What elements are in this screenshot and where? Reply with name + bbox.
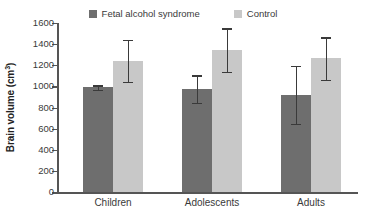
y-axis-tick-label: 1000 <box>33 80 54 91</box>
error-bar-cap-lower <box>222 72 232 73</box>
legend-item-fetal-alcohol-syndrome: Fetal alcohol syndrome <box>89 9 200 19</box>
error-bar-cap-lower <box>93 90 103 91</box>
x-axis-label-children: Children <box>63 197 163 209</box>
y-axis-tick-label: 1200 <box>33 59 54 70</box>
legend-label-fas: Fetal alcohol syndrome <box>102 9 200 19</box>
error-bar-cap-lower <box>291 124 301 125</box>
bar-group-adults <box>281 23 341 192</box>
error-bar-line <box>128 40 129 82</box>
error-bar-cap-upper <box>291 66 301 67</box>
legend-swatch-fas <box>89 10 97 18</box>
error-bar-cap-upper <box>192 75 202 76</box>
x-axis-line <box>52 192 358 194</box>
bar-adolescents-fas <box>182 89 212 192</box>
bar-group-children <box>83 23 143 192</box>
chart-legend: Fetal alcohol syndrome Control <box>0 5 366 23</box>
error-bar-cap-upper <box>123 40 133 41</box>
error-bar-cap-upper <box>222 28 232 29</box>
error-bar-cap-lower <box>321 80 331 81</box>
plot-area: 16001400120010008006004002000 ChildrenAd… <box>57 23 358 192</box>
error-bar-cap-lower <box>192 103 202 104</box>
legend-label-control: Control <box>247 9 278 19</box>
error-bar-line <box>227 28 228 71</box>
y-axis-tick-label: 1400 <box>33 38 54 49</box>
y-axis-title-exponent: 3 <box>4 66 11 70</box>
bar-group-adolescents <box>182 23 242 192</box>
legend-item-control: Control <box>234 9 278 19</box>
y-axis-title-tail: ) <box>5 63 16 66</box>
error-bar-cap-lower <box>123 82 133 83</box>
error-bar-line <box>197 75 198 102</box>
legend-swatch-control <box>234 10 242 18</box>
y-axis-tick-label: 1600 <box>33 17 54 28</box>
y-axis-tick-label: 0 <box>49 186 54 197</box>
error-bar-line <box>326 37 327 79</box>
error-bar-line <box>296 66 297 124</box>
error-bar-cap-upper <box>93 85 103 86</box>
x-axis-label-adults: Adults <box>261 197 361 209</box>
y-axis-tick-label: 200 <box>38 165 54 176</box>
error-bar-cap-upper <box>321 37 331 38</box>
y-axis-tick-label: 800 <box>38 102 54 113</box>
y-axis-title: Brain volume (cm3) <box>2 23 14 192</box>
y-axis-line <box>57 23 59 192</box>
y-axis-title-text: Brain volume (cm <box>5 70 16 152</box>
y-axis-tick-label: 600 <box>38 123 54 134</box>
x-axis-label-adolescents: Adolescents <box>162 197 262 209</box>
y-axis-tick-label: 400 <box>38 144 54 155</box>
bar-children-fas <box>83 87 113 192</box>
